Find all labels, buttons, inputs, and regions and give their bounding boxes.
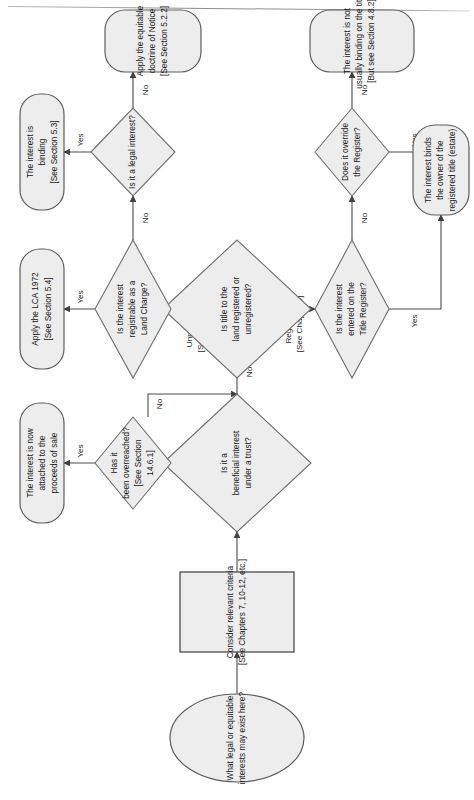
node-override[interactable]: Does it override the Register? [315,108,389,196]
node-notice[interactable]: Apply the equitable doctrine of Notice [… [105,5,201,76]
node-proceeds[interactable]: The interest is now attached to the proc… [20,403,64,523]
node-overreached[interactable]: Has it been overreached? [See Section 14… [95,417,171,509]
node-legal-line-1: Is it a legal interest? [127,115,137,189]
node-landcharge-line-2: registrable as a [127,280,137,337]
node-lca-line-2: [See Section 5.4] [43,277,53,340]
node-binding[interactable]: The interest is binding [See Section 5.3… [20,94,64,210]
node-binds-line-1: The interest binds [423,137,433,203]
node-overreached-line-3: [See Section [133,439,143,486]
node-title[interactable]: Is title to the land registered or unreg… [163,240,311,378]
node-notbinding[interactable]: The interest is not usually binding on t… [310,0,414,89]
node-notice-line-1: Apply the equitable [135,5,145,76]
node-title-line-2: land registered or [231,276,241,341]
node-trust-line-3: under a trust? [243,437,253,489]
node-title-line-1: Is title to the [219,286,229,331]
edge-label-overreached-yes: Yes [76,444,85,457]
node-binding-line-3: [See Section 5.3] [49,120,59,183]
node-lca[interactable]: Apply the LCA 1972 [See Section 5.4] [20,249,64,369]
node-criteria-line-2: [See Chapters 7, 10-12, etc.] [237,559,247,665]
node-binds-line-2: the owner of the [435,140,445,200]
node-landcharge[interactable]: Is the interest registrable as a Land Ch… [95,240,171,378]
node-start-line-2: interests may exist here? [237,692,247,785]
edge-label-landcharge-yes: Yes [76,290,85,303]
edge-label-legal-no: No [141,84,150,95]
flowchart-svg: Yes Yes No No Unregistered [See Chapter … [0,0,474,800]
edge-label-overreached-no: No [155,398,164,409]
edge-label-register-no: No [360,212,369,223]
node-overreached-line-2: been overreached? [121,427,131,499]
node-proceeds-line-2: attached to the [37,435,47,490]
node-register-line-1: Is the interest [334,283,344,334]
node-lca-line-1: Apply the LCA 1972 [30,272,40,346]
node-criteria[interactable]: Consider relevant criteria [See Chapters… [180,559,294,665]
edge-label-landcharge-no: No [141,212,150,223]
edge-label-legal-yes: Yes [76,133,85,146]
node-overreached-line-1: Has it [109,452,119,474]
node-register-line-3: Title Register? [358,282,368,336]
flowchart-page: Yes Yes No No Unregistered [See Chapter … [0,0,474,800]
rotated-diagram-wrapper: Yes Yes No No Unregistered [See Chapter … [0,0,474,800]
node-notice-line-3: [See Section 5.2.2] [159,6,169,76]
node-legal[interactable]: Is it a legal interest? [91,108,175,196]
node-overreached-line-4: 14.6.1] [145,450,155,475]
node-trust[interactable]: Is it a beneficial interest under a trus… [163,394,311,532]
node-start[interactable]: What legal or equitable interests may ex… [170,692,304,785]
node-binds[interactable]: The interest binds the owner of the regi… [413,125,469,215]
node-binds-line-3: registered title (estate) [447,128,457,211]
node-title-line-3: unregistered? [243,283,253,334]
node-override-line-1: Does it override [340,123,350,181]
node-start-line-1: What legal or equitable [225,695,235,780]
node-register[interactable]: Is the interest entered on the Title Reg… [315,240,389,378]
node-notbinding-line-2: usually binding on the title [354,0,364,89]
node-binding-line-2: binding [37,138,47,165]
node-notbinding-line-1: The interest is not [342,7,352,74]
node-binding-line-1: The interest is [25,126,35,178]
node-trust-line-1: Is it a [219,453,229,473]
node-proceeds-line-1: The interest is now [25,427,35,498]
node-proceeds-line-3: proceeds of sale [49,432,59,493]
edge-label-register-yes: Yes [410,314,419,327]
edge-register-to-binds [389,215,441,309]
node-criteria-line-1: Consider relevant criteria [225,566,235,659]
node-trust-line-2: beneficial interest [231,430,241,495]
node-register-line-2: entered on the [346,282,356,336]
node-notbinding-line-3: [But see Section 4.8.2] [366,0,376,83]
node-notice-line-2: doctrine of Notice [147,8,157,73]
node-override-line-2: the Register? [352,127,362,177]
node-landcharge-line-1: Is the interest [115,283,125,334]
node-landcharge-line-3: Land Charge? [139,282,149,335]
